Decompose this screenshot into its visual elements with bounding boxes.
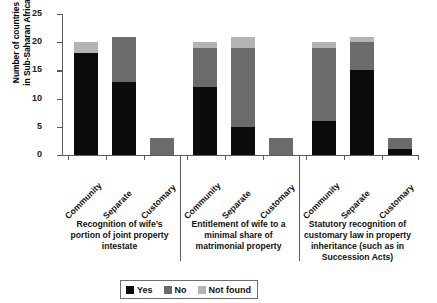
bar-community bbox=[312, 42, 336, 155]
y-tick-label-10: 10 bbox=[16, 93, 42, 103]
stacked-bar-chart: Number of countries in Sub-Saharan Afric… bbox=[0, 0, 437, 303]
x-label-customary: Customary bbox=[258, 182, 297, 221]
x-tick bbox=[106, 155, 107, 160]
chart-legend: YesNoNot found bbox=[120, 280, 258, 299]
y-tick-5 bbox=[57, 127, 62, 128]
x-tick bbox=[187, 155, 188, 160]
y-tick-label-20: 20 bbox=[16, 36, 42, 46]
legend-label: Not found bbox=[209, 285, 251, 295]
y-tick-15 bbox=[57, 70, 62, 71]
bar-segment-yes bbox=[350, 70, 374, 155]
legend-label: No bbox=[175, 285, 187, 295]
bar-separate bbox=[112, 37, 136, 155]
legend-swatch-icon bbox=[198, 286, 206, 294]
bar-segment-yes bbox=[193, 87, 217, 155]
group-caption-line: matrimonial property bbox=[176, 241, 301, 252]
x-tick bbox=[144, 155, 145, 160]
x-tick bbox=[344, 155, 345, 160]
legend-item-yes: Yes bbox=[126, 285, 153, 295]
y-tick-20 bbox=[57, 42, 62, 43]
bar-customary bbox=[388, 138, 412, 155]
bar-segment-no bbox=[193, 48, 217, 87]
bar-segment-yes bbox=[231, 127, 255, 155]
group-caption-2: Entitlement of wife to aminimal share of… bbox=[176, 219, 301, 252]
bar-segment-no bbox=[150, 138, 174, 155]
x-label-separate: Separate bbox=[101, 188, 134, 221]
group-caption-line: customary law in property bbox=[295, 230, 420, 241]
bar-customary bbox=[150, 138, 174, 155]
legend-item-not-found: Not found bbox=[198, 285, 251, 295]
x-tick bbox=[263, 155, 264, 160]
x-label-community: Community bbox=[301, 181, 341, 221]
legend-swatch-icon bbox=[164, 286, 172, 294]
group-caption-line: Statutory recognition of bbox=[295, 219, 420, 230]
y-tick-25 bbox=[57, 14, 62, 15]
bar-separate bbox=[350, 37, 374, 155]
bar-separate bbox=[231, 37, 255, 155]
group-caption-line: intestate bbox=[57, 241, 182, 252]
bar-segment-no bbox=[231, 48, 255, 127]
x-tick bbox=[225, 155, 226, 160]
y-tick-label-5: 5 bbox=[16, 121, 42, 131]
legend-item-no: No bbox=[164, 285, 187, 295]
x-label-community: Community bbox=[63, 181, 103, 221]
bar-segment-yes bbox=[74, 53, 98, 155]
bar-segment-not-found bbox=[74, 42, 98, 53]
bar-segment-no bbox=[312, 48, 336, 121]
x-tick bbox=[418, 155, 419, 160]
x-label-separate: Separate bbox=[339, 188, 372, 221]
bar-segment-no bbox=[112, 37, 136, 82]
x-tick bbox=[306, 155, 307, 160]
group-caption-line: Entitlement of wife to a bbox=[176, 219, 301, 230]
x-label-separate: Separate bbox=[220, 188, 253, 221]
y-tick-0 bbox=[57, 155, 62, 156]
group-caption-line: minimal share of bbox=[176, 230, 301, 241]
group-caption-line: portion of joint property bbox=[57, 230, 182, 241]
y-tick-10 bbox=[57, 99, 62, 100]
bar-segment-not-found bbox=[231, 37, 255, 48]
group-caption-line: Recognition of wife’s bbox=[57, 219, 182, 230]
bar-segment-yes bbox=[388, 149, 412, 155]
plot-area: 0510152025 bbox=[62, 14, 419, 155]
group-caption-1: Recognition of wife’sportion of joint pr… bbox=[57, 219, 182, 252]
bar-community bbox=[193, 42, 217, 155]
bar-customary bbox=[269, 138, 293, 155]
bar-segment-no bbox=[269, 138, 293, 155]
legend-label: Yes bbox=[137, 285, 153, 295]
bar-segment-no bbox=[388, 138, 412, 149]
y-tick-label-0: 0 bbox=[16, 149, 42, 159]
x-tick bbox=[382, 155, 383, 160]
group-caption-line: Succession Acts) bbox=[295, 252, 420, 263]
y-axis-line bbox=[62, 14, 63, 155]
y-tick-label-25: 25 bbox=[16, 8, 42, 18]
x-label-customary: Customary bbox=[139, 182, 178, 221]
group-caption-line: inheritance (such as in bbox=[295, 241, 420, 252]
x-axis-line bbox=[62, 155, 419, 156]
legend-swatch-icon bbox=[126, 286, 134, 294]
bar-segment-yes bbox=[112, 82, 136, 155]
y-tick-label-15: 15 bbox=[16, 64, 42, 74]
x-label-community: Community bbox=[182, 181, 222, 221]
x-label-customary: Customary bbox=[377, 182, 416, 221]
bar-segment-no bbox=[350, 42, 374, 70]
group-caption-3: Statutory recognition ofcustomary law in… bbox=[295, 219, 420, 263]
bar-segment-yes bbox=[312, 121, 336, 155]
bar-community bbox=[74, 42, 98, 155]
x-tick bbox=[68, 155, 69, 160]
